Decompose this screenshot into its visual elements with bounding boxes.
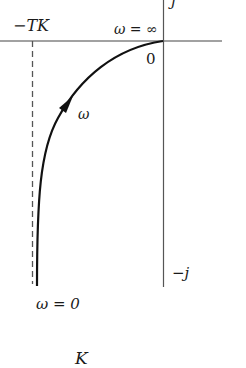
- nyquist-curve: [37, 41, 163, 286]
- omega-infinity-label: ω = ∞: [114, 21, 158, 37]
- asymptote-label: −TK: [13, 16, 50, 35]
- imag-negative-label: −j: [172, 264, 190, 282]
- origin-label: 0: [146, 50, 156, 68]
- footer-k-symbol: K: [74, 348, 89, 368]
- nyquist-diagram: j −TK ω = ∞ 0 ω −j ω = 0 K: [0, 0, 246, 368]
- omega-zero-label: ω = 0: [36, 295, 80, 313]
- omega-direction-label: ω: [78, 106, 90, 122]
- imag-positive-label: j: [168, 0, 176, 10]
